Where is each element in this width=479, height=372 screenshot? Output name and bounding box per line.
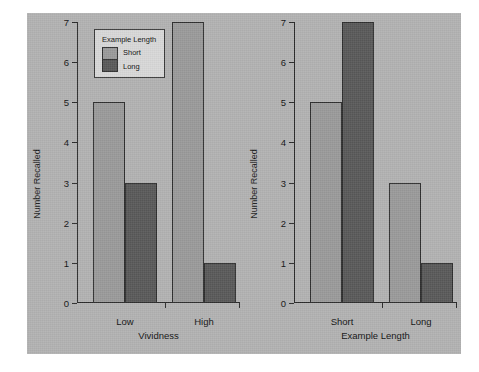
y-tick-2-right: 2	[294, 223, 299, 224]
x-label-short: Short	[331, 316, 354, 327]
figure-panel: Number Recalled 0 1 2	[27, 13, 461, 354]
y-axis-title-left: Number Recalled	[29, 13, 45, 354]
y-tick-1-left: 1	[77, 263, 82, 264]
y-tick-0-right: 0	[294, 303, 299, 304]
x-tick-end-right	[456, 303, 457, 308]
legend-swatches-left	[102, 47, 118, 72]
chart-example-length: Number Recalled 0 1 2	[244, 13, 461, 354]
y-tick-5-right: 5	[294, 102, 299, 103]
bar-short-low[interactable]	[310, 102, 342, 303]
y-tick-2-left: 2	[77, 223, 82, 224]
y-tick-5-left: 5	[77, 102, 82, 103]
bar-low-long[interactable]	[125, 183, 157, 303]
bar-high-short[interactable]	[172, 22, 204, 303]
figure-stage: Number Recalled 0 1 2	[0, 0, 479, 372]
x-label-low: Low	[116, 316, 133, 327]
plot-area-right: 0 1 2 3 4	[294, 22, 446, 303]
bar-high-long[interactable]	[204, 263, 236, 303]
y-tick-7-right: 7	[294, 22, 299, 23]
y-tick-1-right: 1	[294, 263, 299, 264]
x-axis-title-right: Example Length	[294, 330, 457, 341]
legend-swatch-short	[103, 48, 117, 60]
bar-short-high[interactable]	[342, 22, 374, 303]
bar-long-high[interactable]	[421, 263, 453, 303]
legend-label-long: Long	[123, 61, 141, 72]
y-tick-7-left: 7	[77, 22, 82, 23]
bar-low-short[interactable]	[93, 102, 125, 303]
y-tick-6-right: 6	[294, 62, 299, 63]
chart-vividness: Number Recalled 0 1 2	[27, 13, 244, 354]
y-tick-0-left: 0	[77, 303, 82, 304]
legend-swatch-long	[103, 60, 117, 71]
y-axis-title-right: Number Recalled	[246, 13, 262, 354]
y-tick-3-left: 3	[77, 183, 82, 184]
y-tick-4-left: 4	[77, 142, 82, 143]
x-tick-end-left	[239, 303, 240, 308]
y-axis-line-left	[77, 22, 78, 303]
x-tick-mid-left	[165, 303, 166, 308]
y-tick-4-right: 4	[294, 142, 299, 143]
legend-example-length: Example Length Short Long	[94, 29, 165, 78]
x-label-long: Long	[410, 316, 431, 327]
y-axis-line-right	[294, 22, 295, 303]
x-axis-title-left: Vividness	[77, 330, 240, 341]
legend-label-short: Short	[123, 47, 141, 58]
x-tick-mid-right	[382, 303, 383, 308]
bar-long-low[interactable]	[389, 183, 421, 303]
y-tick-3-right: 3	[294, 183, 299, 184]
legend-title-left: Example Length	[102, 35, 156, 44]
y-tick-6-left: 6	[77, 62, 82, 63]
x-label-high: High	[194, 316, 214, 327]
